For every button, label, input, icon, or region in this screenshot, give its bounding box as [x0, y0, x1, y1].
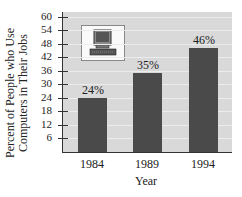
y-tick-mark	[58, 111, 68, 112]
y-tick-mark	[58, 17, 68, 18]
y-tick-mark	[58, 57, 68, 58]
plot-area: 24%35%46%	[62, 12, 232, 153]
y-tick-label: 30	[32, 78, 52, 89]
bar-value-label: 46%	[184, 33, 224, 48]
y-tick-label: 60	[32, 11, 52, 22]
y-tick-mark	[58, 30, 68, 31]
gridline	[63, 30, 232, 31]
bar-value-label: 24%	[73, 83, 113, 98]
y-tick-label: 36	[32, 65, 52, 76]
y-tick-label: 42	[32, 51, 52, 62]
y-tick-label: 48	[32, 38, 52, 49]
y-axis-label-line-2: Computers in Their Jobs	[17, 28, 30, 158]
x-tick-label: 1994	[183, 157, 223, 172]
x-tick-label: 1989	[127, 157, 167, 172]
bar-value-label: 35%	[128, 58, 168, 73]
gridline	[63, 17, 232, 18]
y-tick-mark	[58, 125, 68, 126]
y-tick-mark	[58, 138, 68, 139]
y-tick-mark	[58, 44, 68, 45]
bar-1994	[189, 48, 218, 152]
y-axis-label: Percent of People who Use Computers in T…	[4, 28, 30, 158]
y-tick-mark	[58, 98, 68, 99]
bar-1989	[133, 73, 162, 152]
bar-1984	[78, 98, 107, 152]
y-tick-label: 12	[32, 119, 52, 130]
y-tick-mark	[58, 84, 68, 85]
y-tick-mark	[58, 71, 68, 72]
y-tick-label: 54	[32, 24, 52, 35]
x-tick-label: 1984	[72, 157, 112, 172]
x-axis-label: Year	[126, 174, 166, 189]
y-tick-label: 18	[32, 105, 52, 116]
y-tick-label: 24	[32, 92, 52, 103]
y-tick-label: 6	[32, 132, 52, 143]
